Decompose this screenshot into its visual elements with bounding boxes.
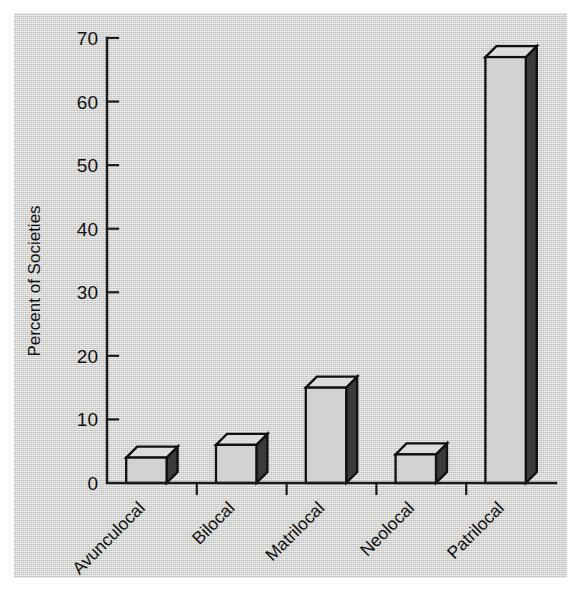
y-tick-label: 60: [77, 92, 98, 113]
x-axis-ticks: [197, 483, 466, 494]
x-axis-category-labels: AvunculocalBilocalMatrilocalNeolocalPatr…: [68, 498, 508, 578]
x-axis-label-matrilocal: Matrilocal: [261, 498, 328, 565]
bar-side-face: [526, 46, 537, 483]
bar-front-face: [216, 445, 256, 483]
bar-chart-svg: 010203040506070 AvunculocalBilocalMatril…: [14, 13, 567, 578]
bar-avunculocal: [126, 447, 177, 483]
y-tick-label: 20: [77, 346, 98, 367]
y-tick-label: 70: [77, 28, 98, 49]
bars-group: [126, 46, 537, 483]
figure-panel: 010203040506070 AvunculocalBilocalMatril…: [14, 13, 567, 578]
bar-side-face: [346, 377, 357, 483]
x-axis-label-avunculocal: Avunculocal: [68, 498, 149, 578]
bar-front-face: [306, 388, 346, 483]
y-tick-label: 40: [77, 219, 98, 240]
y-tick-label: 50: [77, 155, 98, 176]
bar-bilocal: [216, 434, 267, 483]
x-axis-label-neolocal: Neolocal: [356, 498, 418, 560]
chart-screenshot-root: 010203040506070 AvunculocalBilocalMatril…: [0, 0, 581, 592]
x-axis-label-bilocal: Bilocal: [188, 498, 239, 549]
bar-neolocal: [396, 443, 447, 483]
bar-matrilocal: [306, 377, 357, 483]
y-axis-title: Percent of Societies: [25, 205, 44, 356]
bar-front-face: [126, 458, 166, 483]
y-tick-label: 30: [77, 282, 98, 303]
bar-patrilocal: [485, 46, 536, 483]
x-axis-label-patrilocal: Patrilocal: [443, 498, 508, 563]
y-axis-ticks: 010203040506070: [77, 28, 118, 494]
y-tick-label: 10: [77, 409, 98, 430]
bar-front-face: [485, 57, 525, 483]
bar-front-face: [396, 454, 436, 483]
y-tick-label: 0: [87, 473, 98, 494]
